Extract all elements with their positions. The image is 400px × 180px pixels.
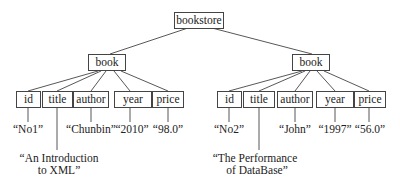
node-book-2-title: title [243,91,275,108]
value-book-1-title-line2: to XML” [38,164,80,177]
node-book-1-title: title [42,91,73,108]
value-book-2-price: “56.0” [355,123,385,136]
node-book-1-author: author [73,91,109,108]
node-book-1: book [88,54,126,71]
node-book-1-price: price [152,91,184,108]
value-book-1-year: “2010” [115,123,148,136]
value-book-1-price: “98.0” [153,123,183,136]
node-book-2: book [292,54,330,71]
node-book-2-year: year [316,91,354,108]
node-book-2-price: price [354,91,386,108]
value-book-1-id: “No1” [13,123,43,136]
value-book-2-year: “1997” [318,123,351,136]
node-book-1-year: year [114,91,152,108]
node-book-1-id: id [16,91,41,108]
node-book-2-id: id [217,91,242,108]
value-book-2-id: “No2” [214,123,244,136]
node-book-2-author: author [277,91,313,108]
value-book-2-author: “John” [279,123,311,136]
node-bookstore: bookstore [174,12,224,29]
value-book-1-author: “Chunbin” [66,123,116,136]
value-book-2-title-line2: of DataBase” [226,164,288,177]
